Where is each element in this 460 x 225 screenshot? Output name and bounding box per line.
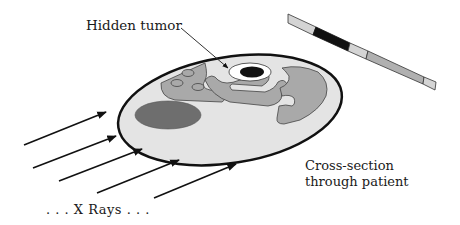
strip-segment-mid: [366, 51, 424, 84]
strip-segment-light: [348, 43, 368, 59]
organ-hole: [192, 84, 204, 91]
xray-arrow: [154, 164, 236, 198]
diagram-canvas: [0, 0, 460, 225]
organ-hole: [171, 80, 183, 87]
strip-segment-dark: [313, 27, 350, 51]
tumor-core: [240, 67, 264, 78]
organ-hole: [182, 70, 194, 77]
cross-section-label-line1: Cross-section: [305, 158, 394, 174]
xray-arrow: [97, 160, 179, 193]
hidden-tumor-label: Hidden tumor: [86, 17, 182, 33]
xray-arrow: [24, 112, 106, 145]
xrays-label: . . . X Rays . . .: [46, 202, 150, 218]
cross-section-label-line2: through patient: [305, 174, 409, 190]
strip-segment-light: [423, 77, 436, 90]
dark-organ: [135, 101, 201, 129]
strip-segment-light: [288, 14, 316, 35]
